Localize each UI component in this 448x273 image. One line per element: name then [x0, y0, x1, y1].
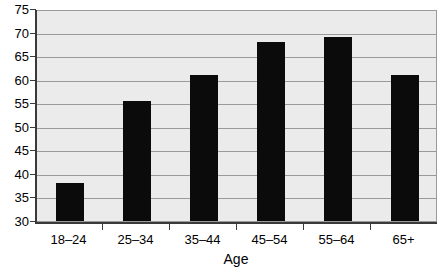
y-tick-label: 65 — [3, 50, 29, 63]
x-tick-mark — [236, 224, 237, 230]
y-axis-tick-labels: 30354045505560657075 — [0, 0, 29, 273]
x-tick-mark — [102, 224, 103, 230]
y-tick-label: 50 — [3, 121, 29, 134]
x-tick-label: 65+ — [392, 232, 414, 247]
bar — [391, 75, 419, 221]
y-tick-mark — [30, 9, 36, 10]
x-tick-label: 25–34 — [117, 232, 153, 247]
x-axis-title: Age — [35, 251, 437, 267]
y-tick-label: 70 — [3, 27, 29, 40]
y-tick-label: 40 — [3, 168, 29, 181]
y-axis-line — [35, 10, 37, 223]
y-tick-label: 45 — [3, 144, 29, 157]
y-tick-mark — [30, 56, 36, 57]
plot-area — [35, 10, 437, 222]
x-tick-label: 55–64 — [318, 232, 354, 247]
y-tick-mark — [30, 127, 36, 128]
bar — [123, 101, 151, 221]
gridline — [36, 34, 436, 35]
y-tick-mark — [30, 103, 36, 104]
y-tick-label: 75 — [3, 3, 29, 16]
y-tick-label: 60 — [3, 74, 29, 87]
gridline — [36, 81, 436, 82]
bar — [190, 75, 218, 221]
y-tick-label: 55 — [3, 97, 29, 110]
x-tick-label: 35–44 — [184, 232, 220, 247]
y-tick-label: 35 — [3, 191, 29, 204]
gridline — [36, 57, 436, 58]
gridline — [36, 175, 436, 176]
y-tick-label: 30 — [3, 215, 29, 228]
y-tick-mark — [30, 174, 36, 175]
gridline — [36, 198, 436, 199]
bar — [56, 183, 84, 221]
bar-chart: 30354045505560657075 18–2425–3435–4445–5… — [0, 0, 448, 273]
y-tick-mark — [30, 150, 36, 151]
gridline — [36, 128, 436, 129]
x-tick-label: 45–54 — [251, 232, 287, 247]
gridline — [36, 104, 436, 105]
bar — [257, 42, 285, 221]
x-tick-mark — [169, 224, 170, 230]
x-tick-mark — [303, 224, 304, 230]
y-tick-mark — [30, 33, 36, 34]
y-tick-mark — [30, 80, 36, 81]
x-tick-mark — [370, 224, 371, 230]
gridline — [36, 151, 436, 152]
y-tick-mark — [30, 197, 36, 198]
bar — [324, 37, 352, 221]
x-tick-label: 18–24 — [50, 232, 86, 247]
